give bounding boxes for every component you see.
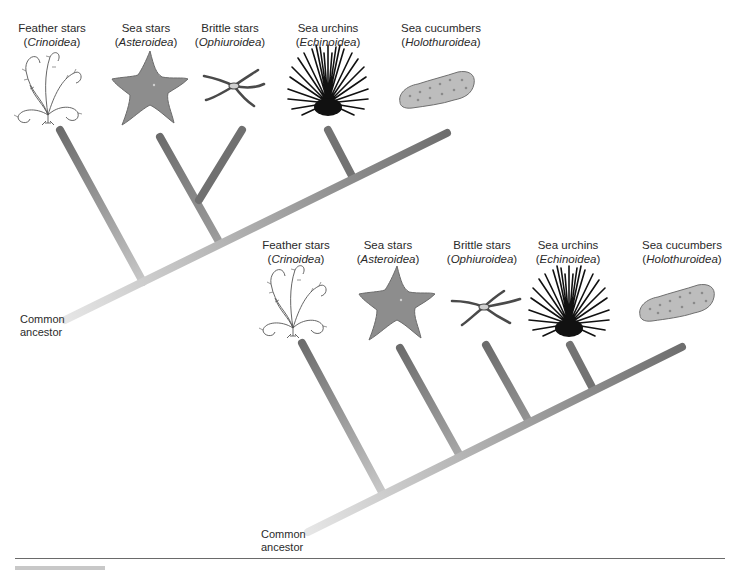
sea-star-icon: [112, 51, 188, 125]
top-branch-sea-urchins: [328, 130, 352, 176]
bottom-label-brittle-stars: Brittle stars (Ophiuroidea): [440, 238, 524, 266]
common-name: Feather stars: [253, 238, 339, 252]
scientific-name: Holothuroidea: [405, 36, 477, 48]
bottom-label-sea-urchins: Sea urchins (Echinoidea): [528, 238, 608, 266]
common-name: Brittle stars: [188, 21, 272, 35]
common-name: Sea cucumbers: [396, 21, 486, 35]
scientific-name: Echinoidea: [540, 253, 597, 265]
top-label-sea-stars: Sea stars (Asteroidea): [106, 21, 186, 49]
top-label-sea-urchins: Sea urchins (Echinoidea): [288, 21, 368, 49]
sea-urchin-icon: [529, 266, 609, 337]
scientific-name: Echinoidea: [300, 36, 357, 48]
feather-star-icon: [14, 53, 82, 125]
scientific-name: Holothuroidea: [646, 253, 718, 265]
ancestor-line-1: Common: [20, 313, 65, 326]
bottom-trunk: [308, 347, 682, 532]
bottom-branch-sea-stars: [400, 348, 460, 456]
scientific-name: Crinoidea: [271, 253, 320, 265]
figure-divider: [15, 558, 725, 559]
top-branch-feather-stars: [60, 130, 143, 282]
scientific-name: Crinoidea: [27, 36, 76, 48]
top-branch-brittle-stars: [199, 130, 242, 200]
common-name: Brittle stars: [440, 238, 524, 252]
top-label-brittle-stars: Brittle stars (Ophiuroidea): [188, 21, 272, 49]
bottom-label-sea-cucumbers: Sea cucumbers (Holothuroidea): [636, 238, 728, 266]
sea-urchin-icon: [288, 45, 368, 116]
ancestor-line-2: ancestor: [20, 326, 65, 339]
brittle-star-icon: [452, 291, 520, 325]
bottom-branch-sea-urchins: [570, 345, 592, 387]
common-name: Sea cucumbers: [636, 238, 728, 252]
scientific-name: Asteroidea: [119, 36, 174, 48]
scientific-name: Ophiuroidea: [199, 36, 262, 48]
bottom-tree-branches: [302, 343, 682, 532]
sea-star-icon: [359, 266, 435, 340]
feather-star-icon: [259, 266, 327, 338]
brittle-star-icon: [204, 70, 264, 106]
scientific-name: Asteroidea: [361, 253, 416, 265]
common-name: Sea stars: [348, 238, 428, 252]
sea-cucumber-icon: [400, 72, 475, 109]
bottom-label-feather-stars: Feather stars (Crinoidea): [253, 238, 339, 266]
common-name: Sea urchins: [288, 21, 368, 35]
ancestor-line-2: ancestor: [261, 541, 306, 554]
common-name: Sea stars: [106, 21, 186, 35]
scientific-name: Ophiuroidea: [451, 253, 514, 265]
figure-caption-cutoff: [15, 566, 105, 570]
sea-cucumber-icon: [640, 285, 715, 322]
phylogeny-diagram: [0, 0, 740, 570]
ancestor-line-1: Common: [261, 528, 306, 541]
bottom-branch-brittle-stars: [486, 345, 528, 420]
common-name: Feather stars: [12, 21, 92, 35]
top-label-sea-cucumbers: Sea cucumbers (Holothuroidea): [396, 21, 486, 49]
common-name: Sea urchins: [528, 238, 608, 252]
bottom-branch-feather-stars: [302, 343, 382, 492]
top-common-ancestor-label: Common ancestor: [20, 313, 65, 339]
top-label-feather-stars: Feather stars (Crinoidea): [12, 21, 92, 49]
bottom-common-ancestor-label: Common ancestor: [261, 528, 306, 554]
bottom-label-sea-stars: Sea stars (Asteroidea): [348, 238, 428, 266]
